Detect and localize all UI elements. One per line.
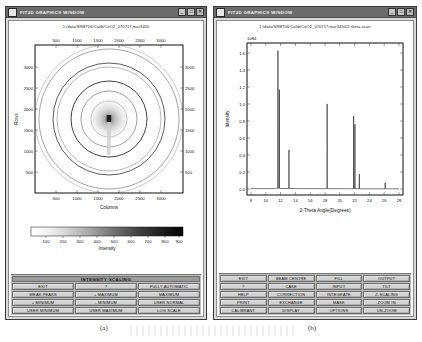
svg-text:1500: 1500 xyxy=(24,128,34,133)
titlebar-a[interactable]: FIT2D GRAPHICS WINDOW _ □ ✕ xyxy=(6,7,206,18)
calibrant-button[interactable]: CALIBRANT xyxy=(220,307,267,314)
window-menu-icon[interactable] xyxy=(8,8,17,17)
fill-button[interactable]: FILL xyxy=(316,275,363,282)
fit2d-graphics-window-a: FIT2D GRAPHICS WINDOW _ □ ✕ 1:/data/SRBT… xyxy=(5,6,207,320)
caption-a: (a) xyxy=(100,324,108,332)
command-column-1: EXIT ? HELP PRINT CALIBRANT xyxy=(220,275,267,314)
svg-text:200: 200 xyxy=(60,239,68,244)
button-column-3: FULLY AUTOMATIC MAXIMUM USER NORMAL LOG … xyxy=(138,283,200,314)
help-button[interactable]: HELP xyxy=(220,291,267,298)
correction-button[interactable]: CORRECTION xyxy=(268,291,315,298)
tilt-button[interactable]: TILT xyxy=(363,283,410,290)
svg-text:1500: 1500 xyxy=(93,38,103,43)
titlebar-b[interactable]: FIT2D GRAPHICS WINDOW _ □ ✕ xyxy=(214,7,416,18)
command-column-4: OUTPUT TILT Z-SCALING ZOOM IN UN-ZOOM xyxy=(363,275,410,314)
svg-text:0.4: 0.4 xyxy=(239,153,245,158)
un-zoom-button[interactable]: UN-ZOOM xyxy=(363,307,410,314)
z-scaling-button[interactable]: Z-SCALING xyxy=(363,291,410,298)
log-scale-button[interactable]: LOG SCALE xyxy=(138,307,200,314)
ytick-labels-left: 5001000 15002000 25003000 xyxy=(24,65,34,175)
user-normal-button[interactable]: USER NORMAL xyxy=(138,299,200,306)
svg-text:28: 28 xyxy=(397,198,402,203)
svg-text:700: 700 xyxy=(145,239,153,244)
svg-text:1.0: 1.0 xyxy=(239,102,245,107)
svg-text:1.2: 1.2 xyxy=(239,85,245,90)
minimize-button-b[interactable]: _ xyxy=(388,8,396,16)
button-column-2: ? + MAXIMUM - MINIMUM USER MAXIMUM xyxy=(75,283,137,314)
maximum-button[interactable]: MAXIMUM xyxy=(138,291,200,298)
input-button[interactable]: INPUT xyxy=(316,283,363,290)
svg-text:20: 20 xyxy=(337,198,342,203)
svg-text:8: 8 xyxy=(250,198,253,203)
maximize-button-a[interactable]: □ xyxy=(187,8,195,16)
decrease-minimum-button[interactable]: - MINIMUM xyxy=(75,299,137,306)
exit-button[interactable]: EXIT xyxy=(220,275,267,282)
svg-text:26: 26 xyxy=(382,198,387,203)
xtick-labels-bottom: 5001000 15002000 25003000 xyxy=(53,196,167,201)
svg-text:400: 400 xyxy=(94,239,102,244)
svg-text:3000: 3000 xyxy=(156,38,166,43)
xtick-labels-b: 8 10 12 14 16 18 20 22 24 26 28 xyxy=(250,198,402,203)
mask-button[interactable]: MASK xyxy=(316,299,363,306)
fit2d-graphics-window-b: FIT2D GRAPHICS WINDOW _ □ ✕ 1:/data/SRBT… xyxy=(213,6,417,320)
maximize-button-b[interactable]: □ xyxy=(397,8,405,16)
intensity-colorbar[interactable]: 100200 300400 500600 700800 900 Intensit… xyxy=(9,225,205,255)
svg-text:500: 500 xyxy=(53,38,61,43)
window-menu-icon[interactable] xyxy=(216,8,225,17)
fully-automatic-button[interactable]: FULLY AUTOMATIC xyxy=(138,283,200,290)
svg-text:900: 900 xyxy=(176,239,184,244)
user-maximum-button[interactable]: USER MAXIMUM xyxy=(75,307,137,314)
svg-text:1000: 1000 xyxy=(24,149,34,154)
integrate-button[interactable]: INTEGRATE xyxy=(316,291,363,298)
display-button[interactable]: DISPLAY xyxy=(268,307,315,314)
svg-text:600: 600 xyxy=(128,239,136,244)
intensity-scaling-button-grid: EXIT WEAK PEAKS + MINIMUM USER MINIMUM ?… xyxy=(12,283,200,314)
svg-text:500: 500 xyxy=(185,170,193,175)
svg-text:22: 22 xyxy=(352,198,357,203)
command-button-grid: EXIT ? HELP PRINT CALIBRANT BEAM CENTRE … xyxy=(220,275,410,314)
help-question-button[interactable]: ? xyxy=(220,283,267,290)
diffraction-image-plot[interactable]: 5001000 15002000 25003000 5001000 150020… xyxy=(9,29,205,225)
svg-text:18: 18 xyxy=(323,198,328,203)
intensity-scaling-header: INTENSITY SCALING xyxy=(12,276,200,282)
svg-text:1500: 1500 xyxy=(93,196,103,201)
svg-text:800: 800 xyxy=(162,239,170,244)
svg-text:1000: 1000 xyxy=(185,149,195,154)
svg-text:0.0: 0.0 xyxy=(239,187,245,192)
svg-text:14: 14 xyxy=(293,198,298,203)
beam-centre-button[interactable]: BEAM CENTRE xyxy=(268,275,315,282)
increase-minimum-button[interactable]: + MINIMUM xyxy=(12,299,74,306)
svg-text:0.6: 0.6 xyxy=(239,136,245,141)
user-minimum-button[interactable]: USER MINIMUM xyxy=(12,307,74,314)
print-button[interactable]: PRINT xyxy=(220,299,267,306)
cake-button[interactable]: CAKE xyxy=(268,283,315,290)
colorbar-tick-labels: 100200 300400 500600 700800 900 xyxy=(43,239,184,244)
window-controls-a: _ □ ✕ xyxy=(178,8,204,16)
figure-page: FIT2D GRAPHICS WINDOW _ □ ✕ 1:/data/SRBT… xyxy=(0,0,422,342)
fit2d-command-panel: EXIT ? HELP PRINT CALIBRANT BEAM CENTRE … xyxy=(219,273,411,315)
command-column-3: FILL INPUT INTEGRATE MASK OPTIONS xyxy=(316,275,363,314)
intensity-scaling-panel: INTENSITY SCALING EXIT WEAK PEAKS + MINI… xyxy=(11,274,201,315)
button-column-1: EXIT WEAK PEAKS + MINIMUM USER MINIMUM xyxy=(12,283,74,314)
svg-text:1.4: 1.4 xyxy=(239,68,245,73)
close-button-a[interactable]: ✕ xyxy=(196,8,204,16)
window-title-a: FIT2D GRAPHICS WINDOW xyxy=(20,10,178,15)
help-question-button[interactable]: ? xyxy=(75,283,137,290)
output-button[interactable]: OUTPUT xyxy=(363,275,410,282)
minimize-button-a[interactable]: _ xyxy=(178,8,186,16)
close-button-b[interactable]: ✕ xyxy=(406,8,414,16)
svg-text:1.6: 1.6 xyxy=(239,51,245,56)
exchange-button[interactable]: EXCHANGE xyxy=(268,299,315,306)
weak-peaks-button[interactable]: WEAK PEAKS xyxy=(12,291,74,298)
client-area-a: 1:/data/SRBT06/Calib/CeO2_070717.mar3450 xyxy=(8,20,204,317)
zoom-in-button[interactable]: ZOOM IN xyxy=(363,299,410,306)
exit-button[interactable]: EXIT xyxy=(12,283,74,290)
increase-maximum-button[interactable]: + MAXIMUM xyxy=(75,291,137,298)
svg-text:500: 500 xyxy=(53,196,61,201)
options-button[interactable]: OPTIONS xyxy=(316,307,363,314)
yaxis-label-a: Rows xyxy=(14,113,19,125)
diffraction-pattern-plot[interactable]: 1084 0.00.2 0.40.6 xyxy=(217,29,415,229)
svg-text:2500: 2500 xyxy=(24,86,34,91)
svg-text:3000: 3000 xyxy=(185,65,195,70)
svg-text:2500: 2500 xyxy=(185,86,195,91)
